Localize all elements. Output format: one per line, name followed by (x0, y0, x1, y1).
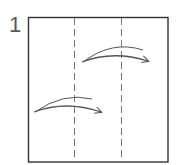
paper-square (29, 18, 169, 163)
fold-diagram (0, 0, 181, 165)
